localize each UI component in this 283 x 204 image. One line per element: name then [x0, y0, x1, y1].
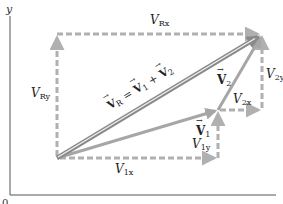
v-rx-label: VRx [150, 14, 169, 28]
v1-label: V1 [196, 125, 210, 139]
v-2y-label: V2y [266, 68, 283, 82]
v-ry-label: VRy [31, 87, 50, 101]
v-2x-label: V2x [233, 93, 251, 107]
resultant-vector [57, 37, 258, 158]
v-1y-label: V1y [192, 138, 210, 152]
origin-label: 0 [2, 197, 8, 204]
y-axis-label: y [6, 3, 12, 16]
v2-label: V2 [217, 74, 231, 88]
v-1x-label: V1x [115, 163, 133, 177]
